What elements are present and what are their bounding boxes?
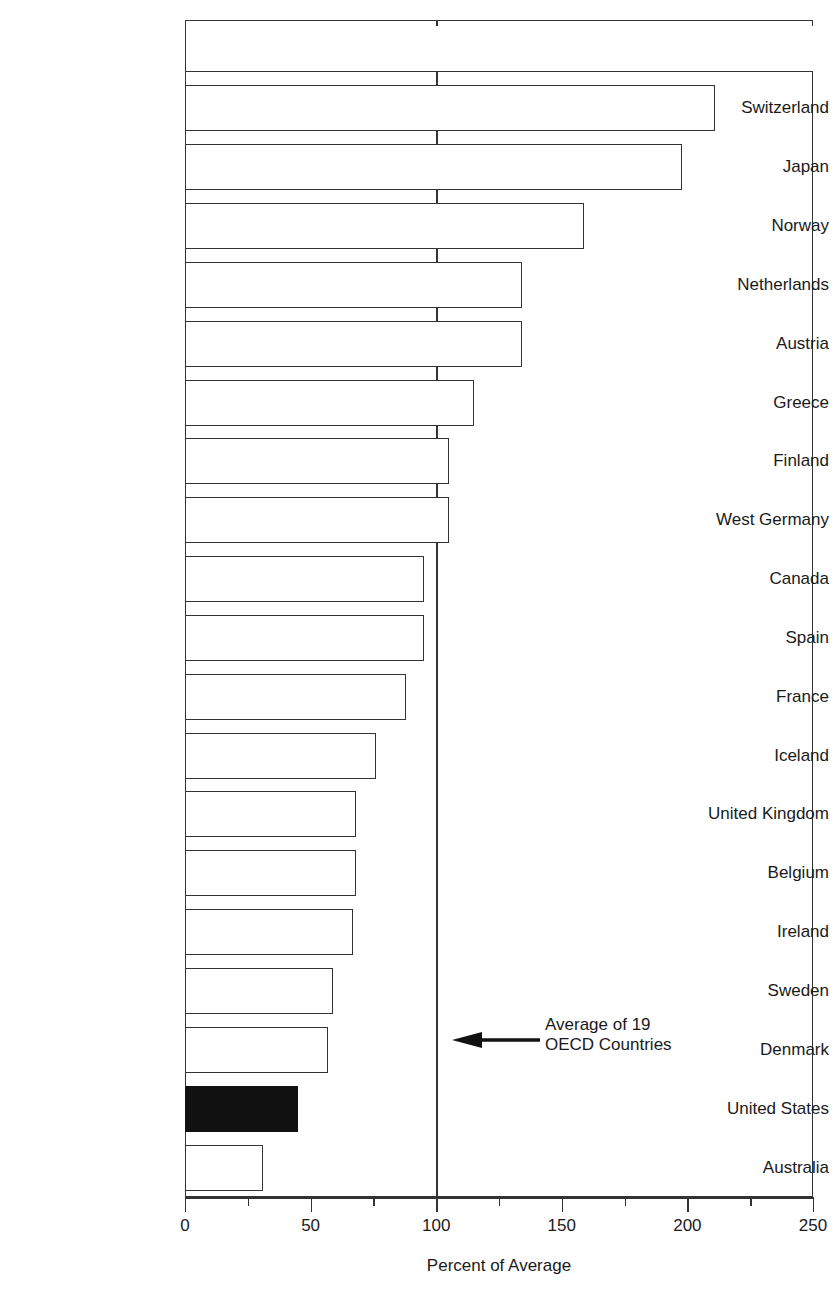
bar-row	[185, 20, 813, 79]
category-label-france: France	[664, 688, 839, 706]
bar-west-germany	[185, 497, 449, 543]
x-tick-minor-175	[625, 1197, 626, 1206]
bar-chart: SwitzerlandJapanNorwayNetherlandsAustria…	[0, 0, 839, 1303]
bar-austria	[185, 321, 522, 367]
x-tick-minor-25	[248, 1197, 249, 1206]
x-tick-minor-225	[750, 1197, 751, 1206]
category-label-canada: Canada	[664, 570, 839, 588]
bar-sweden	[185, 968, 333, 1014]
x-tick-label-150: 150	[548, 1216, 576, 1236]
bar-iceland	[185, 733, 376, 779]
category-label-greece: Greece	[664, 394, 839, 412]
category-label-austria: Austria	[664, 335, 839, 353]
category-label-sweden: Sweden	[664, 982, 839, 1000]
category-label-united-kingdom: United Kingdom	[664, 805, 839, 823]
annotation-line-2: OECD Countries	[545, 1035, 672, 1055]
x-tick-label-200: 200	[673, 1216, 701, 1236]
bar-australia	[185, 1145, 263, 1191]
x-tick-major-50	[311, 1197, 312, 1212]
x-tick-major-250	[813, 1197, 814, 1212]
x-tick-minor-75	[373, 1197, 374, 1206]
annotation-line-1: Average of 19	[545, 1015, 672, 1035]
bar-finland	[185, 438, 449, 484]
category-label-ireland: Ireland	[664, 923, 839, 941]
bar-canada	[185, 556, 424, 602]
annotation-arrow-icon	[452, 1032, 540, 1048]
average-annotation: Average of 19 OECD Countries	[545, 1015, 672, 1055]
bar-japan	[185, 144, 682, 190]
bar-denmark	[185, 1027, 328, 1073]
x-tick-major-100	[436, 1197, 437, 1212]
category-label-spain: Spain	[664, 629, 839, 647]
bars-layer	[185, 20, 813, 1197]
x-tick-major-0	[185, 1197, 186, 1212]
x-tick-label-250: 250	[799, 1216, 827, 1236]
category-label-australia: Australia	[664, 1159, 839, 1177]
bar-united-states	[185, 1086, 298, 1132]
x-tick-minor-125	[499, 1197, 500, 1206]
bar-ireland	[185, 909, 353, 955]
category-label-switzerland: Switzerland	[664, 99, 839, 117]
category-label-united-states: United States	[664, 1100, 839, 1118]
bar-switzerland	[185, 85, 715, 131]
bar-united-kingdom	[185, 791, 356, 837]
category-label-west-germany: West Germany	[664, 511, 839, 529]
bar-belgium	[185, 850, 356, 896]
bar-norway	[185, 203, 584, 249]
category-label-denmark: Denmark	[664, 1041, 839, 1059]
x-tick-label-50: 50	[301, 1216, 320, 1236]
category-label-finland: Finland	[664, 452, 839, 470]
bar-france	[185, 674, 406, 720]
x-tick-major-200	[687, 1197, 688, 1212]
x-axis-title: Percent of Average	[185, 1256, 813, 1276]
bar-netherlands	[185, 262, 522, 308]
category-label-netherlands: Netherlands	[664, 276, 839, 294]
category-label-belgium: Belgium	[664, 864, 839, 882]
bar-greece	[185, 380, 474, 426]
bar-top-clipped	[185, 26, 813, 72]
x-tick-label-0: 0	[180, 1216, 189, 1236]
category-label-japan: Japan	[664, 158, 839, 176]
x-tick-major-150	[562, 1197, 563, 1212]
chart-title-fragment	[0, 0, 839, 2]
category-label-norway: Norway	[664, 217, 839, 235]
category-label-iceland: Iceland	[664, 747, 839, 765]
x-tick-label-100: 100	[422, 1216, 450, 1236]
bar-spain	[185, 615, 424, 661]
